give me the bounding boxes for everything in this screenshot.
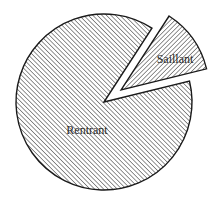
slice-label-rentrant: Rentrant <box>66 123 108 137</box>
pie-chart: SaillantRentrant <box>0 0 217 205</box>
slice-label-saillant: Saillant <box>157 52 194 66</box>
